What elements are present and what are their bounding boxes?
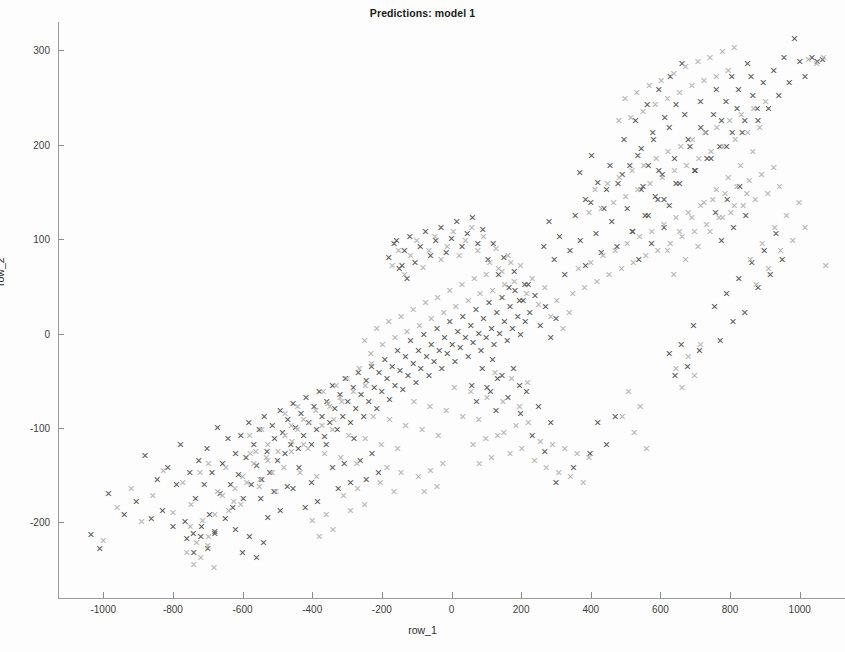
x-tick-label: 200 — [513, 604, 530, 615]
x-tick-mark — [243, 592, 244, 598]
y-tick-label: 300 — [33, 45, 50, 56]
y-tick-label: -200 — [30, 517, 50, 528]
x-tick-mark — [521, 592, 522, 598]
x-tick-label: 0 — [449, 604, 455, 615]
x-tick-mark — [800, 592, 801, 598]
x-tick-mark — [173, 592, 174, 598]
x-tick-label: 800 — [722, 604, 739, 615]
y-tick-mark — [58, 145, 64, 146]
y-tick-mark — [58, 50, 64, 51]
x-tick-mark — [312, 592, 313, 598]
x-tick-mark — [730, 592, 731, 598]
y-tick-label: -100 — [30, 423, 50, 434]
x-tick-label: 400 — [582, 604, 599, 615]
plot-area — [58, 22, 845, 598]
y-tick-mark — [58, 334, 64, 335]
x-tick-mark — [382, 592, 383, 598]
y-axis-label: row_2 — [0, 257, 6, 286]
x-axis-spine — [58, 598, 845, 599]
y-tick-label: 100 — [33, 234, 50, 245]
page-title: Predictions: model 1 — [0, 7, 845, 19]
y-tick-mark — [58, 428, 64, 429]
x-tick-mark — [660, 592, 661, 598]
x-tick-mark — [452, 592, 453, 598]
y-tick-mark — [58, 522, 64, 523]
x-tick-label: 600 — [652, 604, 669, 615]
x-axis-label: row_1 — [0, 624, 845, 636]
x-tick-label: -800 — [163, 604, 183, 615]
y-tick-label: 0 — [44, 328, 50, 339]
x-tick-label: -1000 — [90, 604, 116, 615]
x-tick-label: -600 — [233, 604, 253, 615]
y-tick-mark — [58, 239, 64, 240]
y-tick-label: 200 — [33, 139, 50, 150]
x-tick-label: 1000 — [789, 604, 811, 615]
x-tick-mark — [591, 592, 592, 598]
x-tick-label: -200 — [372, 604, 392, 615]
scatter-plot-figure: Predictions: model 1 row_2 row_1 3002001… — [0, 0, 845, 652]
x-tick-mark — [103, 592, 104, 598]
x-tick-label: -400 — [302, 604, 322, 615]
